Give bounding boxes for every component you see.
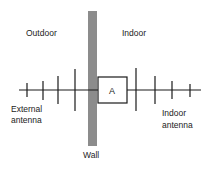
antenna-diagram <box>0 0 214 171</box>
wall <box>88 11 97 146</box>
indoor-label: Indoor <box>122 28 146 38</box>
indoor-antenna-label-line2: antenna <box>162 120 193 130</box>
outdoor-label: Outdoor <box>26 28 57 38</box>
box-a-label: A <box>109 86 115 96</box>
wall-label: Wall <box>83 150 99 160</box>
indoor-antenna-label-line1: Indoor <box>162 108 186 118</box>
external-antenna-label-line1: External <box>11 104 42 114</box>
external-antenna-label-line2: antenna <box>11 115 42 125</box>
